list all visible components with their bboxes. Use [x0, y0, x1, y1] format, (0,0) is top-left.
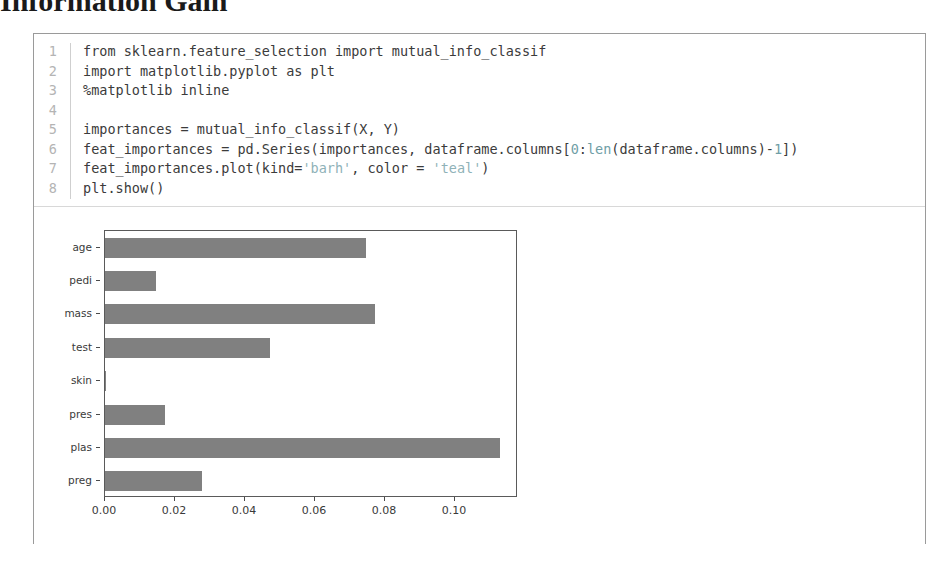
y-axis-tick: [96, 247, 100, 248]
code-token: import matplotlib.pyplot as plt: [83, 63, 335, 79]
notebook-cell: 1from sklearn.feature_selection import m…: [33, 33, 926, 544]
code-line: 8plt.show(): [34, 180, 925, 200]
plot-output-area: pregplaspresskintestmasspediage 0.000.02…: [34, 208, 925, 544]
code-line-text: from sklearn.feature_selection import mu…: [83, 43, 546, 59]
line-number: 7: [34, 160, 70, 176]
x-axis-tick: [384, 497, 385, 501]
code-token: feat_importances.plot(kind=: [83, 160, 302, 176]
code-token: :: [579, 141, 587, 157]
code-token: , color =: [351, 160, 432, 176]
line-number: 1: [34, 43, 70, 59]
page-title: Information Gain: [0, 0, 228, 14]
y-axis-labels: pregplaspresskintestmasspediage: [52, 230, 100, 497]
gutter-divider: [70, 43, 71, 63]
y-axis-tick-label: age: [72, 241, 92, 253]
chart-bar: [105, 438, 500, 458]
y-axis-tick-label: test: [72, 341, 92, 353]
code-token: ): [481, 160, 489, 176]
x-axis-tick: [454, 497, 455, 501]
code-line: 6feat_importances = pd.Series(importance…: [34, 141, 925, 161]
line-number: 8: [34, 180, 70, 196]
code-line-text: feat_importances = pd.Series(importances…: [83, 141, 798, 157]
code-line: 4: [34, 102, 925, 122]
y-axis-tick: [96, 380, 100, 381]
x-axis-tick: [314, 497, 315, 501]
code-token: 'barh': [302, 160, 351, 176]
y-axis-tick: [96, 480, 100, 481]
code-line-text: plt.show(): [83, 180, 164, 196]
code-token: importances = mutual_info_classif(X, Y): [83, 121, 400, 137]
chart-bar: [105, 471, 202, 491]
chart-bar: [105, 271, 156, 291]
code-line: 7feat_importances.plot(kind='barh', colo…: [34, 160, 925, 180]
y-axis-tick: [96, 447, 100, 448]
gutter-divider: [70, 160, 71, 180]
x-axis-tick-label: 0.04: [232, 504, 257, 517]
code-line-text: importances = mutual_info_classif(X, Y): [83, 121, 400, 137]
chart-bar: [105, 338, 270, 358]
chart-bar: [105, 304, 375, 324]
line-number: 6: [34, 141, 70, 157]
code-line: 3%matplotlib inline: [34, 82, 925, 102]
y-axis-tick-label: pres: [69, 408, 92, 420]
code-token: 0: [571, 141, 579, 157]
code-editor[interactable]: 1from sklearn.feature_selection import m…: [34, 34, 925, 207]
y-axis-tick: [96, 414, 100, 415]
code-line: 5importances = mutual_info_classif(X, Y): [34, 121, 925, 141]
x-axis-tick-label: 0.08: [372, 504, 397, 517]
y-axis-tick-label: mass: [64, 307, 92, 319]
code-token: ]): [782, 141, 798, 157]
code-token: (dataframe.columns)-: [611, 141, 774, 157]
code-token: from sklearn.feature_selection import mu…: [83, 43, 546, 59]
chart-bar: [105, 238, 366, 258]
x-axis-tick: [244, 497, 245, 501]
chart-axes: [104, 230, 517, 497]
code-token: len: [587, 141, 611, 157]
code-token: %matplotlib inline: [83, 82, 229, 98]
x-axis-tick-label: 0.00: [92, 504, 117, 517]
gutter-divider: [70, 63, 71, 83]
code-line: 1from sklearn.feature_selection import m…: [34, 43, 925, 63]
y-axis-tick: [96, 313, 100, 314]
y-axis-tick: [96, 347, 100, 348]
line-number: 4: [34, 102, 70, 118]
code-line-text: import matplotlib.pyplot as plt: [83, 63, 335, 79]
x-axis-tick-label: 0.02: [162, 504, 187, 517]
code-line-text: %matplotlib inline: [83, 82, 229, 98]
x-axis-tick: [174, 497, 175, 501]
y-axis-tick-label: pedi: [69, 274, 92, 286]
chart-bar: [105, 405, 165, 425]
x-axis-tick: [104, 497, 105, 501]
gutter-divider: [70, 82, 71, 102]
x-axis-tick-label: 0.06: [302, 504, 327, 517]
code-token: plt.show(): [83, 180, 164, 196]
y-axis-tick: [96, 280, 100, 281]
code-token: 1: [774, 141, 782, 157]
gutter-divider: [70, 102, 71, 122]
gutter-divider: [70, 141, 71, 161]
code-token: feat_importances = pd.Series(importances…: [83, 141, 571, 157]
code-line: 2import matplotlib.pyplot as plt: [34, 63, 925, 83]
y-axis-tick-label: preg: [68, 474, 92, 486]
chart-bar: [105, 371, 106, 391]
gutter-divider: [70, 121, 71, 141]
line-number: 3: [34, 82, 70, 98]
line-number: 5: [34, 121, 70, 137]
y-axis-tick-label: plas: [71, 441, 93, 453]
code-token: 'teal': [433, 160, 482, 176]
y-axis-tick-label: skin: [71, 374, 92, 386]
matplotlib-figure: pregplaspresskintestmasspediage 0.000.02…: [52, 212, 532, 532]
code-line-text: feat_importances.plot(kind='barh', color…: [83, 160, 489, 176]
gutter-divider: [70, 180, 71, 200]
line-number: 2: [34, 63, 70, 79]
x-axis-tick-label: 0.10: [442, 504, 467, 517]
